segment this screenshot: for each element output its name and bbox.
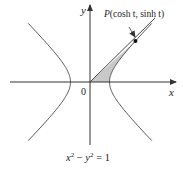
point-p-close: ) bbox=[161, 9, 164, 20]
point-p bbox=[133, 39, 137, 43]
origin-label: 0 bbox=[81, 86, 86, 97]
y-axis-label: y bbox=[80, 4, 86, 16]
eq-rhs: = 1 bbox=[94, 152, 110, 163]
ray-op bbox=[90, 18, 155, 82]
x-axis-label: x bbox=[168, 86, 174, 98]
point-p-coords: cosh t, sinh t bbox=[113, 9, 161, 19]
equation-label: x2 − y2 = 1 bbox=[65, 151, 110, 163]
pointer-arrow bbox=[129, 27, 135, 37]
point-p-label: P(cosh t, sinh t) bbox=[103, 9, 164, 20]
hyperbola-diagram: y x 0 P(cosh t, sinh t) x2 − y2 = 1 bbox=[0, 0, 183, 172]
eq-minus: − bbox=[74, 152, 85, 163]
